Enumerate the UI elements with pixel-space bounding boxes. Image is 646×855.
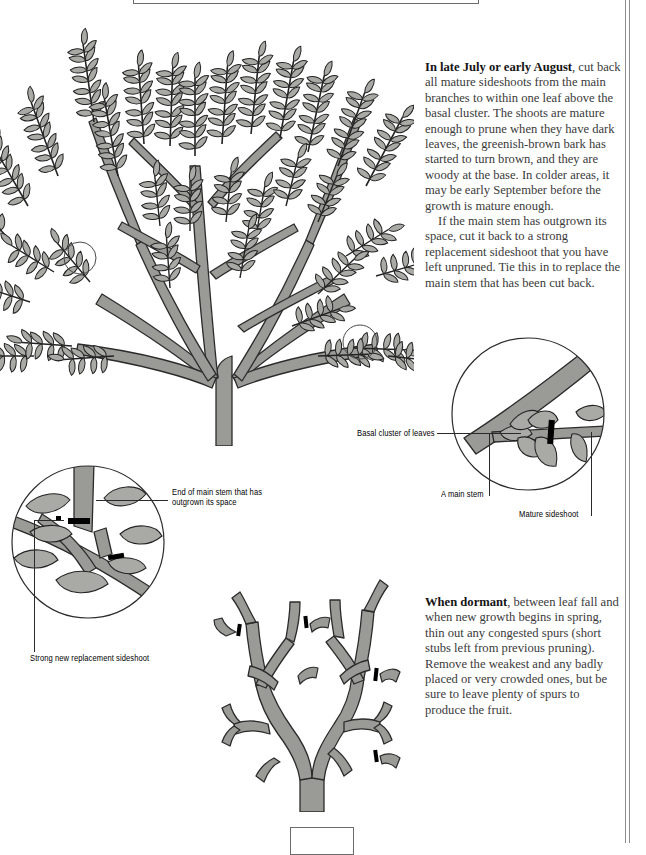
detail-circle-left xyxy=(8,462,168,622)
crop-mark-bottom xyxy=(290,827,354,855)
dormant-branch-figure xyxy=(212,572,412,812)
paragraph-late-july: In late July or early August, cut back a… xyxy=(425,60,623,214)
leader-strong-new-sideshoot xyxy=(34,520,35,652)
leader-basal-cluster xyxy=(437,433,521,434)
paragraph-when-dormant: When dormant, between leaf fall and when… xyxy=(425,595,623,718)
lead-in-when-dormant: When dormant xyxy=(425,595,507,609)
text-block-when-dormant: When dormant, between leaf fall and when… xyxy=(425,595,623,718)
body-when-dormant: , between leaf fall and when new growth … xyxy=(425,595,619,717)
paragraph-main-stem-outgrown: If the main stem has outgrown its space,… xyxy=(425,214,623,291)
page-rule-outer xyxy=(625,0,626,843)
page-rule-inner xyxy=(629,0,630,843)
leader-mature-sideshoot xyxy=(591,432,592,516)
text-block-late-july: In late July or early August, cut back a… xyxy=(425,60,623,291)
leader-a-main-stem xyxy=(489,434,490,496)
leader-end-of-main-stem xyxy=(96,500,168,501)
fan-trained-tree-figure xyxy=(0,26,414,446)
label-a-main-stem: A main stem xyxy=(441,489,484,499)
label-mature-sideshoot: Mature sideshoot xyxy=(519,509,578,519)
label-strong-new-replacement-sideshoot: Strong new replacement sideshoot xyxy=(30,653,149,663)
label-basal-cluster-of-leaves: Basal cluster of leaves xyxy=(357,428,435,438)
label-end-of-main-stem: End of main stem that has outgrown its s… xyxy=(172,487,262,508)
lead-in-late-july: In late July or early August xyxy=(425,60,572,74)
detail-circle-right xyxy=(448,334,608,494)
crop-mark-top xyxy=(133,0,479,4)
leader-strong-new-sideshoot-hook xyxy=(34,520,64,521)
body-late-july: , cut back all mature sideshoots from th… xyxy=(425,60,621,213)
